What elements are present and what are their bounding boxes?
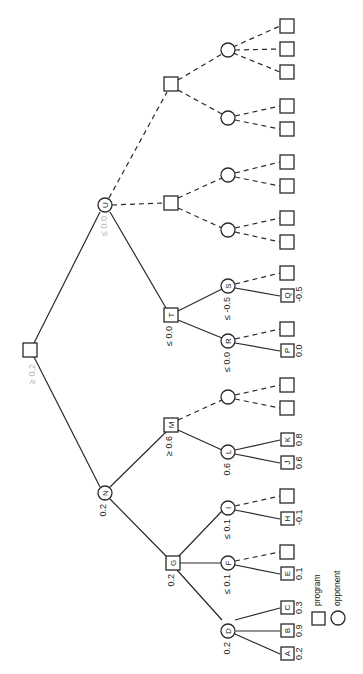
svg-text:N: N [101,490,110,496]
leaf-K: K 0.8 [281,433,304,446]
node-R: R ≤ 0.0 [221,334,235,372]
node-I: I ≤ 0.1 [221,501,235,539]
leaf-H: H -0.1 [281,509,304,525]
svg-text:-0.5: -0.5 [294,286,304,302]
root-node: ≥ 0.2 [23,343,37,384]
svg-text:J: J [283,461,292,465]
leaf-J: J 0.6 [281,456,304,469]
svg-text:≤ 0.1: ≤ 0.1 [222,574,232,594]
svg-text:0.0: 0.0 [294,344,304,357]
svg-text:0.2: 0.2 [166,574,176,587]
edges [34,26,280,654]
svg-text:D: D [224,628,233,634]
svg-text:B: B [283,628,292,633]
node-S: S ≤ -0.5 [221,279,235,320]
leaf-E: E 0.1 [281,567,304,580]
node-L: L 0.6 [221,445,235,476]
leaf-Q: Q -0.5 [281,286,304,302]
svg-text:F: F [224,560,233,565]
opponent-circle-icon [331,611,345,625]
svg-text:≤ 0.0: ≤ 0.0 [164,326,174,346]
leaf-C: C 0.3 [281,601,304,614]
svg-text:U: U [101,202,110,208]
svg-text:0.2: 0.2 [294,647,304,660]
svg-text:M: M [167,421,176,428]
legend-program-label: program [312,574,322,606]
svg-text:0.2: 0.2 [98,504,108,517]
leaf-A: A 0.2 [281,647,304,660]
node-D: D 0.2 [221,624,235,655]
svg-text:L: L [224,449,233,454]
legend: program opponent [312,570,345,625]
program-square-icon [312,612,325,625]
alpha-beta-tree-diagram: ≥ 0.2 U ≤ 0.0 N 0.2 T ≤ 0.0 M ≥ 0.6 G 0.… [0,0,363,674]
node-T: T ≤ 0.0 [164,308,178,346]
unexplored-square-2 [164,196,178,210]
svg-text:0.2: 0.2 [222,642,232,655]
node-U: U ≤ 0.0 [98,198,112,236]
root-value: ≥ 0.2 [27,364,37,384]
svg-text:C: C [283,604,292,610]
svg-text:P: P [283,348,292,353]
svg-text:R: R [224,338,233,344]
svg-text:≤ 0.0: ≤ 0.0 [99,216,109,236]
svg-text:K: K [283,436,292,442]
svg-text:0.9: 0.9 [294,624,304,637]
legend-opponent-label: opponent [332,570,342,606]
leaf-B: B 0.9 [281,624,304,637]
svg-text:0.3: 0.3 [294,601,304,614]
svg-text:0.6: 0.6 [222,463,232,476]
svg-text:≥ 0.6: ≥ 0.6 [164,436,174,456]
svg-text:A: A [283,650,292,656]
node-F: F ≤ 0.1 [221,556,235,594]
svg-text:0.8: 0.8 [294,433,304,446]
unexplored-circles [221,43,235,404]
node-N: N 0.2 [98,486,112,517]
svg-text:H: H [283,515,292,521]
svg-text:E: E [283,571,292,576]
svg-text:0.6: 0.6 [294,456,304,469]
svg-text:≤ -0.5: ≤ -0.5 [222,297,232,320]
svg-text:Q: Q [283,292,292,298]
leaf-P: P 0.0 [281,344,304,357]
unexplored-square-1 [164,77,178,91]
svg-text:-0.1: -0.1 [294,509,304,525]
svg-text:T: T [167,312,176,317]
svg-text:S: S [224,283,233,288]
node-M: M ≥ 0.6 [164,418,178,456]
svg-text:I: I [224,507,233,509]
svg-text:0.1: 0.1 [294,567,304,580]
svg-text:G: G [169,560,178,566]
svg-text:≤ 0.0: ≤ 0.0 [222,352,232,372]
svg-text:≤ 0.1: ≤ 0.1 [222,519,232,539]
